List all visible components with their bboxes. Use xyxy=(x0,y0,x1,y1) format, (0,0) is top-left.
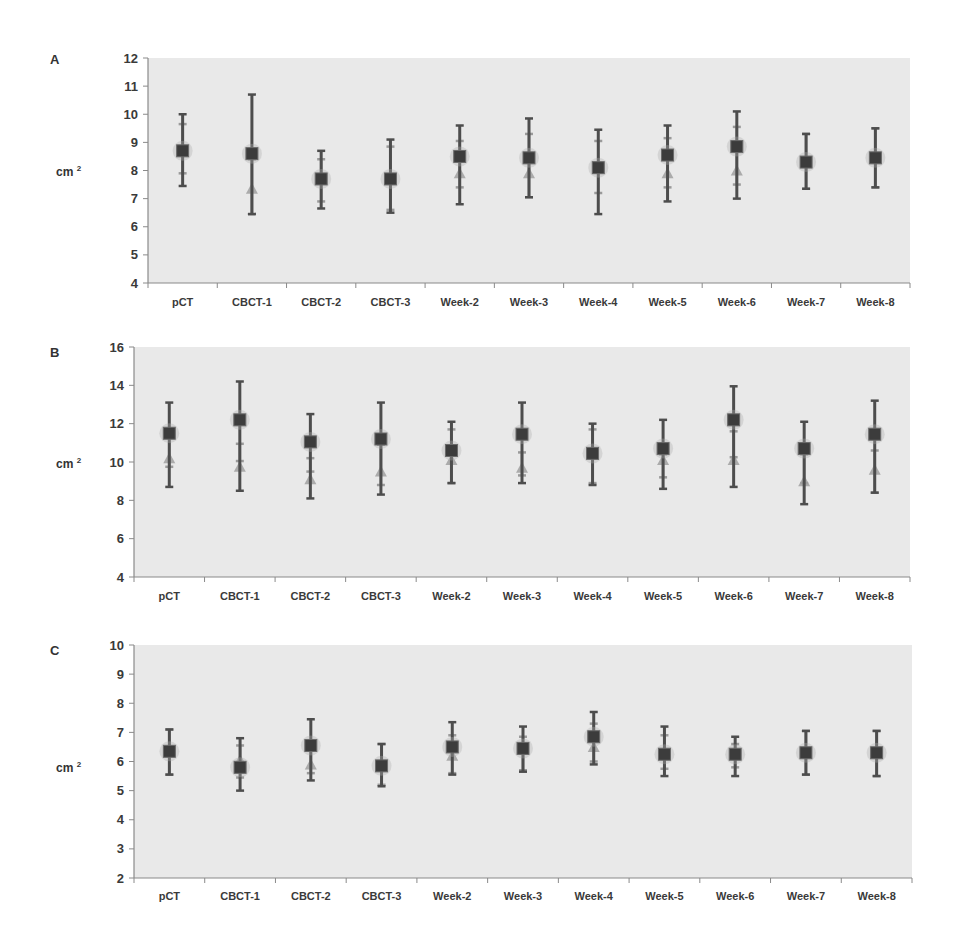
square-marker-icon xyxy=(800,747,812,759)
y-tick-label: 8 xyxy=(117,696,124,711)
square-marker-icon xyxy=(517,742,529,754)
square-marker-icon xyxy=(729,748,741,760)
x-tick-label: Week-4 xyxy=(575,890,614,902)
x-tick-label: CBCT-3 xyxy=(362,890,402,902)
x-tick-label: pCT xyxy=(159,890,181,902)
x-tick-label: Week-3 xyxy=(504,890,542,902)
x-tick-label: Week-8 xyxy=(857,890,895,902)
y-tick-label: 4 xyxy=(117,812,125,827)
x-tick-label: Week-2 xyxy=(433,890,471,902)
y-tick-label: 2 xyxy=(117,871,124,886)
y-tick-label: 5 xyxy=(117,783,124,798)
y-tick-label: 9 xyxy=(117,667,124,682)
square-marker-icon xyxy=(658,748,670,760)
square-marker-icon xyxy=(234,761,246,773)
square-marker-icon xyxy=(871,747,883,759)
x-tick-label: Week-6 xyxy=(716,890,754,902)
x-tick-label: CBCT-1 xyxy=(220,890,260,902)
square-marker-icon xyxy=(376,760,388,772)
x-tick-label: Week-5 xyxy=(645,890,683,902)
y-tick-label: 6 xyxy=(117,754,124,769)
square-marker-icon xyxy=(446,741,458,753)
panel-c: C cm 2 2345678910pCTCBCT-1CBCT-2CBCT-3We… xyxy=(0,0,954,937)
x-tick-label: CBCT-2 xyxy=(291,890,331,902)
square-marker-icon xyxy=(588,731,600,743)
x-tick-label: Week-7 xyxy=(787,890,825,902)
y-tick-label: 7 xyxy=(117,725,124,740)
y-tick-label: 3 xyxy=(117,841,124,856)
square-marker-icon xyxy=(305,739,317,751)
y-tick-label: 10 xyxy=(110,638,124,653)
square-marker-icon xyxy=(163,745,175,757)
panel-c-chart: 2345678910pCTCBCT-1CBCT-2CBCT-3Week-2Wee… xyxy=(0,0,954,937)
